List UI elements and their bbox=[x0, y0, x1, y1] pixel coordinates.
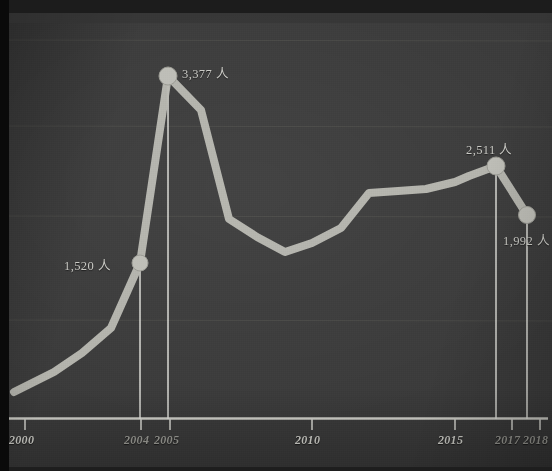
data-label-2017: 2,511 人 bbox=[466, 139, 513, 158]
data-series-line bbox=[14, 76, 527, 392]
marker-2017[interactable] bbox=[487, 157, 505, 175]
x-tick-label-2000: 2000 bbox=[9, 433, 34, 448]
data-label-2005: 3,377 人 bbox=[182, 63, 229, 82]
x-tick-label-2010: 2010 bbox=[295, 433, 320, 448]
x-tick-label-2015: 2015 bbox=[438, 433, 463, 448]
gridline-2 bbox=[9, 216, 552, 217]
gridline-1 bbox=[9, 320, 552, 321]
gridline-3 bbox=[9, 126, 552, 127]
marker-2018[interactable] bbox=[519, 207, 536, 224]
gridline-4 bbox=[9, 40, 552, 41]
marker-2004[interactable] bbox=[132, 255, 148, 271]
data-label-2004: 1,520 人 bbox=[64, 255, 111, 274]
leader-lines bbox=[140, 80, 527, 419]
x-tick-label-2004: 2004 bbox=[124, 433, 149, 448]
page-left-edge bbox=[0, 0, 9, 471]
page-top-shade bbox=[9, 13, 552, 23]
page-bottom-edge bbox=[0, 467, 552, 471]
line-chart-canvas bbox=[0, 0, 552, 471]
marker-2005[interactable] bbox=[159, 67, 177, 85]
x-tick-label-2005: 2005 bbox=[154, 433, 179, 448]
x-tick-label-2017: 2017 bbox=[495, 433, 520, 448]
gridlines bbox=[9, 40, 552, 321]
chart-screenshot: 1,520 人 3,377 人 2,511 人 1,992 人 2000 200… bbox=[0, 0, 552, 471]
data-label-2018: 1,992 人 bbox=[503, 230, 550, 249]
page-top-edge bbox=[0, 0, 552, 13]
x-tick-label-2018: 2018 bbox=[523, 433, 548, 448]
